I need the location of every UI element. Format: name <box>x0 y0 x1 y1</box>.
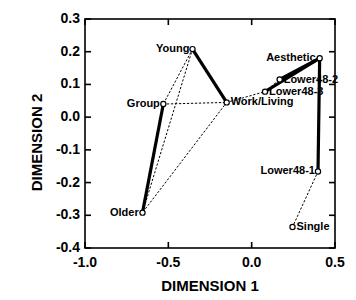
y-tick-label: 0.0 <box>30 108 80 124</box>
x-tick-label: -1.0 <box>55 254 115 270</box>
x-tick-label: 0.5 <box>305 254 356 270</box>
point-label: Lower48-3 <box>269 86 323 97</box>
point-label: Aesthetic <box>266 52 316 63</box>
y-tick-label: 0.3 <box>30 10 80 26</box>
y-tick-label: -0.1 <box>30 141 80 157</box>
x-tick-label: -0.5 <box>138 254 198 270</box>
point-label: Group <box>127 98 160 109</box>
y-tick-label: 0.2 <box>30 43 80 59</box>
point-label: Lower48-2 <box>284 74 338 85</box>
point-label: Older <box>110 207 139 218</box>
point-label: Young <box>156 43 189 54</box>
chart-figure: DIMENSION 2 DIMENSION 1 0.30.20.10.0-0.1… <box>0 0 356 300</box>
y-tick-label: -0.3 <box>30 206 80 222</box>
y-tick-label: -0.2 <box>30 174 80 190</box>
y-tick-label: -0.4 <box>30 239 80 255</box>
x-axis-title: DIMENSION 1 <box>85 277 335 294</box>
point-label: Work/Living <box>231 96 294 107</box>
point-label: Lower48-1 <box>261 165 315 176</box>
x-tick-label: 0.0 <box>222 254 282 270</box>
y-tick-label: 0.1 <box>30 75 80 91</box>
point-label: Single <box>297 221 330 232</box>
